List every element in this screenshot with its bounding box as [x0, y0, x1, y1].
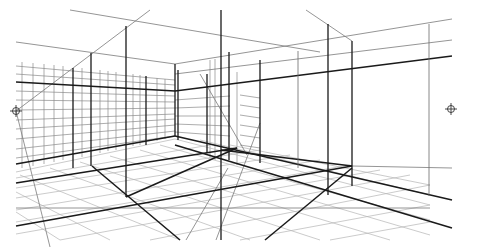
vertical-posts	[73, 10, 352, 240]
left-wall-grid	[16, 62, 175, 168]
right-vanishing-point-crosshair-icon	[445, 103, 457, 115]
left-vanishing-point-crosshair-icon	[10, 105, 22, 117]
perspective-grid-canvas	[0, 0, 477, 247]
horizon-guides	[16, 10, 452, 247]
